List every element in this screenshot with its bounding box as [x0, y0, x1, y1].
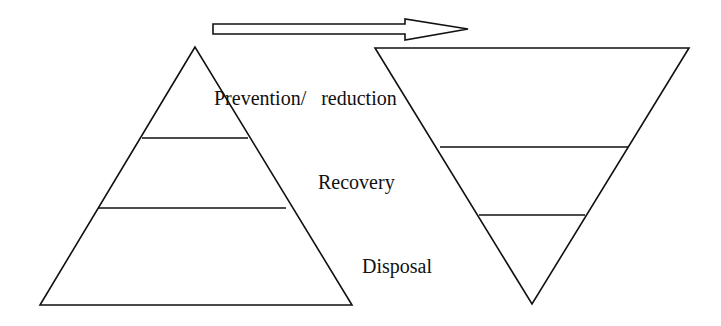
waste-hierarchy-diagram: Prevention/ reduction Recovery Disposal: [0, 0, 721, 326]
right-arrow-icon: [213, 19, 468, 40]
label-disposal: Disposal: [362, 255, 432, 278]
left-pyramid-outline: [40, 47, 352, 305]
left-pyramid: [40, 47, 352, 305]
label-prevention-reduction: Prevention/ reduction: [214, 87, 397, 109]
label-recovery: Recovery: [318, 171, 395, 194]
